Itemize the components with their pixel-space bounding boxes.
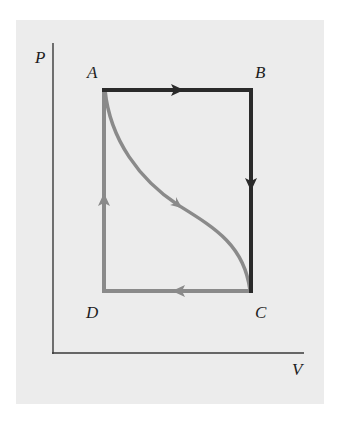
point-label-c: C xyxy=(255,303,267,322)
axis-label-p: P xyxy=(34,48,45,67)
point-label-d: D xyxy=(85,303,99,322)
axis-label-v: V xyxy=(292,360,305,379)
path-a-to-c-curve xyxy=(105,90,250,290)
pv-diagram: P V A B C D xyxy=(0,0,338,421)
point-label-a: A xyxy=(86,63,98,82)
point-label-b: B xyxy=(255,63,266,82)
